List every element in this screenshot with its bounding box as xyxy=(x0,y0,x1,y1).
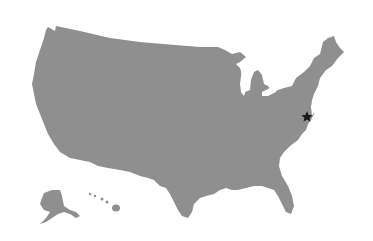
alaska-shape xyxy=(40,190,80,224)
hawaii-island-1 xyxy=(89,193,91,195)
us-map: United States Washington, D.C. area xyxy=(0,0,373,241)
hawaii-big-island xyxy=(112,205,120,212)
hawaii-island-2 xyxy=(94,195,96,197)
contiguous-us-shape xyxy=(32,26,344,218)
hawaii-island-3 xyxy=(101,198,104,201)
us-map-svg xyxy=(0,0,373,241)
hawaii-island-4 xyxy=(106,201,109,204)
